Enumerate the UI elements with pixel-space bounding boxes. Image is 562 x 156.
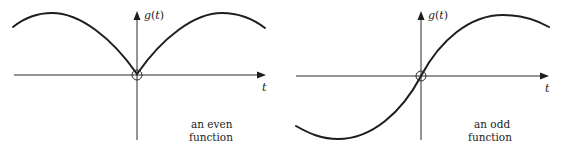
odd-function-panel: g(t) t an odd function: [296, 9, 550, 143]
x-axis-arrow-icon: [257, 72, 266, 79]
x-axis-label: t: [262, 81, 267, 94]
x-axis-label: t: [545, 82, 550, 95]
odd-function-curve: [296, 15, 549, 139]
y-axis-arrow-icon: [134, 11, 141, 20]
caption-line-2: function: [189, 131, 233, 143]
even-odd-function-diagram: g(t) t an even function g(t) t an odd fu…: [0, 0, 562, 156]
caption-line-1: an even: [191, 118, 233, 130]
even-function-panel: g(t) t an even function: [13, 9, 267, 143]
y-axis-label: g(t): [428, 9, 448, 22]
y-axis-label: g(t): [144, 9, 164, 22]
y-axis-arrow-icon: [418, 11, 425, 20]
even-function-curve: [13, 13, 265, 74]
caption-line-1: an odd: [474, 118, 510, 130]
caption-line-2: function: [468, 131, 512, 143]
x-axis-arrow-icon: [540, 73, 549, 80]
